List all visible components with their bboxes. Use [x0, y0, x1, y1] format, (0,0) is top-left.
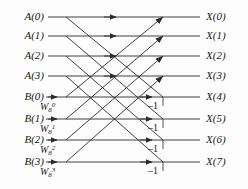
output-label-x6: X(6): [206, 134, 226, 145]
negative-one-label-row-4: –1: [148, 101, 158, 111]
rail-direction-arrows: [104, 17, 116, 76]
output-label-x3: X(3): [206, 70, 226, 81]
twiddle-sup-3: 3: [52, 166, 56, 174]
output-label-x4: X(4): [206, 91, 226, 102]
output-label-x7: X(7): [206, 156, 226, 167]
input-label-a0: A(0): [8, 11, 44, 22]
twiddle-label-w8-3: W83: [40, 167, 55, 179]
input-label-b0: B(0): [8, 91, 44, 102]
negative-one-label-row-5: –1: [148, 123, 158, 133]
negative-one-label-row-7: –1: [148, 166, 158, 176]
input-label-a1: A(1): [8, 30, 44, 41]
twiddle-sup-1: 1: [52, 123, 56, 131]
twiddle-sup-2: 2: [52, 144, 56, 152]
negative-one-label-row-6: –1: [148, 144, 158, 154]
fft-butterfly-figure: A(0) A(1) A(2) A(3) B(0) B(1) B(2) B(3) …: [0, 0, 248, 189]
input-label-b3: B(3): [8, 156, 44, 167]
output-label-x0: X(0): [206, 11, 226, 22]
input-label-b2: B(2): [8, 134, 44, 145]
output-label-x1: X(1): [206, 30, 226, 41]
twiddle-label-w8-2: W82: [40, 145, 55, 157]
output-label-x2: X(2): [206, 50, 226, 61]
twiddle-label-w8-1: W81: [40, 124, 55, 136]
input-label-a2: A(2): [8, 50, 44, 61]
output-label-x5: X(5): [206, 113, 226, 124]
input-label-a3: A(3): [8, 70, 44, 81]
twiddle-sup-0: 0: [52, 101, 56, 109]
input-label-b1: B(1): [8, 113, 44, 124]
twiddle-label-w8-0: W80: [40, 102, 55, 114]
